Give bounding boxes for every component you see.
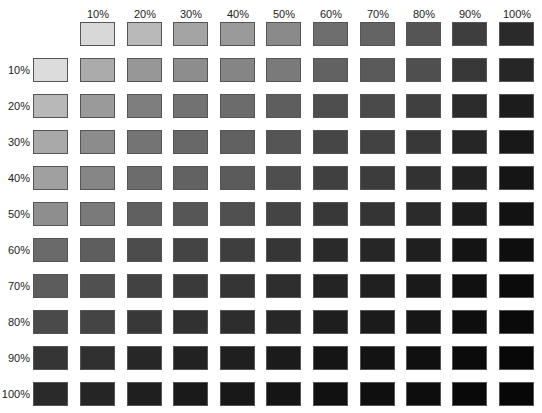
grid-swatch <box>173 130 208 154</box>
header-swatch-column <box>406 22 441 46</box>
grid-swatch <box>360 94 395 118</box>
row-label: 20% <box>0 100 30 112</box>
header-swatch-column <box>360 22 395 46</box>
grid-swatch <box>266 130 301 154</box>
grid-swatch <box>127 310 162 334</box>
header-swatch-row <box>33 238 68 262</box>
grid-swatch <box>127 58 162 82</box>
grid-swatch <box>406 382 441 406</box>
grid-swatch <box>499 274 534 298</box>
header-swatch-column <box>313 22 348 46</box>
grid-swatch <box>127 130 162 154</box>
grid-swatch <box>266 382 301 406</box>
grid-swatch <box>499 238 534 262</box>
grid-swatch <box>220 274 255 298</box>
row-label: 70% <box>0 280 30 292</box>
grid-swatch <box>452 346 487 370</box>
grid-swatch <box>127 202 162 226</box>
header-swatch-column <box>266 22 301 46</box>
column-label: 50% <box>261 8 307 20</box>
grid-swatch <box>499 346 534 370</box>
grid-swatch <box>80 58 115 82</box>
column-label: 60% <box>308 8 354 20</box>
header-swatch-row <box>33 202 68 226</box>
grid-swatch <box>220 382 255 406</box>
grid-swatch <box>220 58 255 82</box>
row-label: 50% <box>0 208 30 220</box>
grid-swatch <box>406 346 441 370</box>
column-label: 40% <box>215 8 261 20</box>
grid-swatch <box>173 166 208 190</box>
column-label: 80% <box>401 8 447 20</box>
header-swatch-column <box>452 22 487 46</box>
grid-swatch <box>173 382 208 406</box>
grid-swatch <box>173 94 208 118</box>
grid-swatch <box>266 94 301 118</box>
grid-swatch <box>80 310 115 334</box>
grid-swatch <box>173 274 208 298</box>
grid-swatch <box>220 130 255 154</box>
grid-swatch <box>313 58 348 82</box>
grid-swatch <box>313 238 348 262</box>
grid-swatch <box>80 346 115 370</box>
grid-swatch <box>406 202 441 226</box>
grid-swatch <box>127 94 162 118</box>
grid-swatch <box>313 202 348 226</box>
grid-swatch <box>313 274 348 298</box>
grid-swatch <box>220 346 255 370</box>
header-swatch-row <box>33 274 68 298</box>
grid-swatch <box>313 130 348 154</box>
grid-swatch <box>406 310 441 334</box>
header-swatch-row <box>33 58 68 82</box>
row-label: 10% <box>0 64 30 76</box>
grid-swatch <box>266 346 301 370</box>
grid-swatch <box>406 94 441 118</box>
grid-swatch <box>360 382 395 406</box>
grid-swatch <box>452 130 487 154</box>
grid-swatch <box>360 274 395 298</box>
row-label: 30% <box>0 136 30 148</box>
grid-swatch <box>80 94 115 118</box>
grid-swatch <box>452 238 487 262</box>
header-swatch-row <box>33 166 68 190</box>
grid-swatch <box>499 202 534 226</box>
grid-swatch <box>220 238 255 262</box>
grid-swatch <box>499 166 534 190</box>
grid-swatch <box>499 130 534 154</box>
row-label: 100% <box>0 388 30 400</box>
grid-swatch <box>360 130 395 154</box>
row-label: 90% <box>0 352 30 364</box>
grid-swatch <box>360 202 395 226</box>
header-swatch-column <box>173 22 208 46</box>
grid-swatch <box>499 310 534 334</box>
header-swatch-row <box>33 310 68 334</box>
column-label: 90% <box>447 8 493 20</box>
grid-swatch <box>406 130 441 154</box>
grid-swatch <box>313 166 348 190</box>
grid-swatch <box>499 58 534 82</box>
column-label: 20% <box>122 8 168 20</box>
grid-swatch <box>406 274 441 298</box>
grid-swatch <box>127 382 162 406</box>
grid-swatch <box>80 274 115 298</box>
header-swatch-column <box>127 22 162 46</box>
grid-swatch <box>452 94 487 118</box>
grid-swatch <box>127 166 162 190</box>
header-swatch-row <box>33 382 68 406</box>
grid-swatch <box>266 166 301 190</box>
grid-swatch <box>406 166 441 190</box>
grid-swatch <box>173 238 208 262</box>
header-swatch-row <box>33 130 68 154</box>
grid-swatch <box>80 238 115 262</box>
grid-swatch <box>360 166 395 190</box>
grid-swatch <box>80 166 115 190</box>
header-swatch-column <box>80 22 115 46</box>
grid-swatch <box>127 274 162 298</box>
grid-swatch <box>80 202 115 226</box>
grid-swatch <box>80 382 115 406</box>
grid-swatch <box>360 58 395 82</box>
row-label: 80% <box>0 316 30 328</box>
grid-swatch <box>360 238 395 262</box>
grid-swatch <box>173 58 208 82</box>
column-label: 70% <box>355 8 401 20</box>
